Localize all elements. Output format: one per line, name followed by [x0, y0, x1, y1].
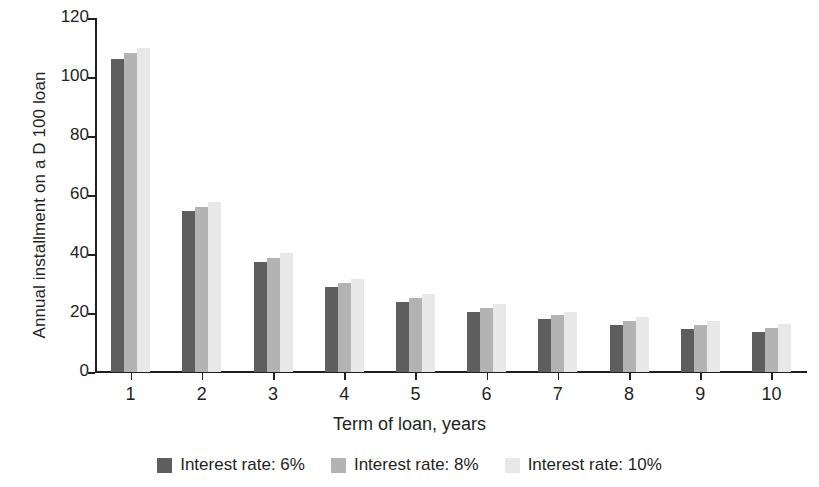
bar-3-series-1 [267, 258, 280, 372]
bar-8-series-1 [623, 321, 636, 372]
x-tick-mark [415, 372, 417, 380]
y-tick-mark [88, 77, 95, 79]
x-tick-mark [202, 372, 204, 380]
x-tick-label-10: 10 [751, 384, 791, 405]
x-tick-mark [558, 372, 560, 380]
legend-item-1[interactable]: Interest rate: 8% [331, 455, 479, 475]
chart-legend: Interest rate: 6%Interest rate: 8%Intere… [0, 455, 819, 475]
x-tick-mark [771, 372, 773, 380]
bar-group-2 [182, 18, 221, 372]
bar-5-series-2 [422, 294, 435, 372]
x-tick-mark [273, 372, 275, 380]
bar-5-series-0 [396, 302, 409, 372]
x-axis-title: Term of loan, years [0, 414, 819, 435]
bar-9-series-2 [707, 321, 720, 372]
y-axis-title: Annual installment on a D 100 loan [30, 25, 50, 385]
legend-label: Interest rate: 10% [528, 455, 662, 475]
plot-area: 020406080100120 [95, 18, 807, 372]
bar-7-series-0 [538, 319, 551, 372]
bar-5-series-1 [409, 298, 422, 372]
legend-item-0[interactable]: Interest rate: 6% [157, 455, 305, 475]
x-tick-mark [487, 372, 489, 380]
bar-group-6 [467, 18, 506, 372]
x-tick-label-6: 6 [467, 384, 507, 405]
bar-group-9 [681, 18, 720, 372]
bar-9-series-0 [681, 329, 694, 372]
y-tick-mark [88, 18, 95, 20]
legend-item-2[interactable]: Interest rate: 10% [505, 455, 662, 475]
y-tick-label: 0 [80, 361, 89, 381]
bar-4-series-1 [338, 283, 351, 372]
y-tick-mark [88, 136, 95, 138]
bar-2-series-1 [195, 207, 208, 372]
y-tick-label: 120 [61, 7, 89, 27]
y-tick-mark [88, 195, 95, 197]
x-tick-label-1: 1 [111, 384, 151, 405]
x-tick-mark [344, 372, 346, 380]
bar-4-series-2 [351, 279, 364, 372]
bar-2-series-2 [208, 202, 221, 372]
y-tick-label: 80 [70, 125, 89, 145]
y-tick-mark [88, 372, 95, 374]
y-tick-label: 100 [61, 66, 89, 86]
bar-10-series-2 [778, 324, 791, 372]
y-tick-label: 60 [70, 184, 89, 204]
bar-9-series-1 [694, 325, 707, 372]
bar-4-series-0 [325, 287, 338, 372]
bar-group-3 [254, 18, 293, 372]
bar-group-4 [325, 18, 364, 372]
legend-label: Interest rate: 6% [180, 455, 305, 475]
bar-group-10 [752, 18, 791, 372]
bar-group-7 [538, 18, 577, 372]
bar-10-series-1 [765, 328, 778, 372]
bar-6-series-2 [493, 304, 506, 372]
bar-7-series-2 [564, 312, 577, 372]
bar-7-series-1 [551, 315, 564, 372]
bar-10-series-0 [752, 332, 765, 372]
bar-1-series-2 [137, 48, 150, 373]
bar-2-series-0 [182, 211, 195, 372]
x-tick-label-9: 9 [680, 384, 720, 405]
x-tick-label-8: 8 [609, 384, 649, 405]
x-tick-mark [629, 372, 631, 380]
bar-group-8 [610, 18, 649, 372]
legend-swatch-icon [331, 458, 346, 473]
x-tick-mark [700, 372, 702, 380]
bar-1-series-0 [111, 59, 124, 372]
x-tick-label-7: 7 [538, 384, 578, 405]
legend-label: Interest rate: 8% [354, 455, 479, 475]
bar-6-series-1 [480, 308, 493, 372]
x-tick-label-5: 5 [395, 384, 435, 405]
y-tick-mark [88, 254, 95, 256]
bar-chart: Annual installment on a D 100 loan 02040… [0, 0, 819, 487]
bar-8-series-2 [636, 317, 649, 372]
x-tick-mark [131, 372, 133, 380]
x-tick-label-3: 3 [253, 384, 293, 405]
bar-8-series-0 [610, 325, 623, 372]
legend-swatch-icon [157, 458, 172, 473]
y-tick-label: 40 [70, 243, 89, 263]
x-tick-label-4: 4 [324, 384, 364, 405]
bar-6-series-0 [467, 312, 480, 372]
bar-1-series-1 [124, 53, 137, 372]
legend-swatch-icon [505, 458, 520, 473]
y-tick-label: 20 [70, 302, 89, 322]
bar-3-series-2 [280, 253, 293, 372]
bar-3-series-0 [254, 262, 267, 372]
bar-group-1 [111, 18, 150, 372]
x-tick-label-2: 2 [182, 384, 222, 405]
bar-group-5 [396, 18, 435, 372]
y-tick-mark [88, 313, 95, 315]
